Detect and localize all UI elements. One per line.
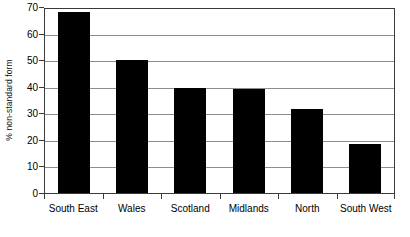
x-axis-tick-mark (394, 194, 395, 199)
bar[interactable] (174, 88, 206, 193)
x-axis-tick-mark (161, 194, 162, 199)
bar-slot (278, 9, 336, 193)
y-axis-tick-label: 60 (27, 30, 38, 40)
x-axis-tick-mark (220, 194, 221, 199)
x-axis-tick-mark (337, 194, 338, 199)
bar-slot (45, 9, 103, 193)
y-axis-tick-label: 40 (27, 83, 38, 93)
bar-slot (161, 9, 219, 193)
bar[interactable] (58, 12, 90, 193)
y-axis-tick-label: 70 (27, 3, 38, 13)
bar[interactable] (116, 60, 148, 193)
y-axis-title-text: % non-standard form (4, 59, 14, 140)
x-axis-tick-label: Scotland (161, 202, 220, 224)
x-axis-tick-mark (278, 194, 279, 199)
x-axis-tick-label: South East (44, 202, 103, 224)
bar[interactable] (233, 89, 265, 193)
bar-slot (336, 9, 394, 193)
x-axis-tick-mark (44, 194, 45, 199)
bar[interactable] (291, 109, 323, 193)
x-axis-tick-label: South West (337, 202, 396, 224)
x-axis-tick-label: Midlands (220, 202, 279, 224)
y-axis-tick-label: 30 (27, 109, 38, 119)
y-axis-tick-label: 50 (27, 56, 38, 66)
x-axis-tick-marks (44, 194, 395, 200)
bar-chart-figure: % non-standard form 010203040506070 Sout… (0, 0, 410, 237)
x-axis-tick-label: North (278, 202, 337, 224)
bars-container (45, 9, 394, 193)
plot-area (44, 8, 395, 194)
y-axis-tick-label: 20 (27, 136, 38, 146)
bar[interactable] (349, 144, 381, 193)
x-axis-category-labels: South EastWalesScotlandMidlandsNorthSout… (44, 202, 395, 224)
y-axis-title: % non-standard form (0, 0, 18, 200)
y-axis-tick-label: 0 (32, 189, 38, 199)
bar-slot (220, 9, 278, 193)
y-axis-tick-label: 10 (27, 162, 38, 172)
x-axis-tick-mark (103, 194, 104, 199)
x-axis-tick-label: Wales (103, 202, 162, 224)
y-axis-tick-labels: 010203040506070 (18, 8, 40, 194)
bar-slot (103, 9, 161, 193)
